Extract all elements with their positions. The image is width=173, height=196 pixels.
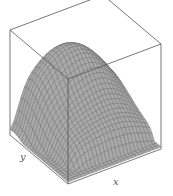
surface-plot	[0, 0, 173, 196]
x-axis-label: x	[113, 176, 119, 187]
y-axis-label: y	[20, 151, 26, 162]
